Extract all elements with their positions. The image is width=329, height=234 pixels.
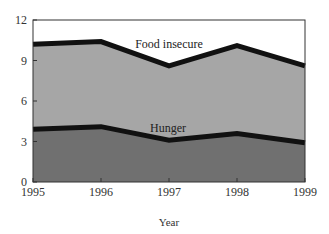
x-axis-title: Year xyxy=(159,216,180,228)
x-tick-label: 1995 xyxy=(21,185,45,199)
area-chart: 036912 19951996199719981999 Food insecur… xyxy=(0,0,329,234)
x-tick-label: 1999 xyxy=(293,185,317,199)
x-tick-label: 1998 xyxy=(225,185,249,199)
x-tick-label: 1997 xyxy=(157,185,181,199)
y-tick-label: 3 xyxy=(21,135,27,149)
series-label-hunger: Hunger xyxy=(150,121,186,135)
y-tick-label: 6 xyxy=(21,94,27,108)
x-tick-label: 1996 xyxy=(89,185,113,199)
y-tick-label: 12 xyxy=(15,13,27,27)
y-tick-label: 9 xyxy=(21,54,27,68)
series-label-food-insecure: Food insecure xyxy=(135,37,203,51)
